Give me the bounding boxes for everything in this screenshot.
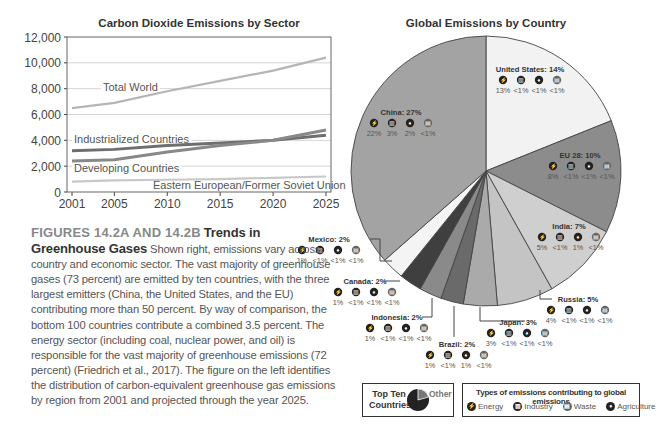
svg-text:♦: ♦ bbox=[526, 330, 529, 336]
share-value: <1% bbox=[399, 334, 414, 343]
pie-label-brazil: Brazil: 2%⚡1%▥<1%♦1%▤<1% bbox=[425, 340, 492, 370]
country-label: United States: 14% bbox=[496, 65, 565, 74]
waste-icon: ▤ bbox=[563, 402, 572, 411]
svg-text:⚡: ⚡ bbox=[550, 163, 557, 170]
emission-types-list: ⚡Energy▥Industry▤Waste♦Agriculture bbox=[467, 402, 655, 411]
x-tick-label: 2010 bbox=[154, 197, 181, 211]
legend-label: Energy bbox=[478, 402, 503, 411]
svg-text:♦: ♦ bbox=[409, 120, 412, 126]
svg-text:▤: ▤ bbox=[554, 77, 560, 83]
svg-text:♦: ♦ bbox=[538, 77, 541, 83]
share-value: <1% bbox=[550, 86, 565, 95]
share-value: 8% bbox=[548, 172, 559, 181]
share-value: <1% bbox=[385, 298, 400, 307]
svg-text:▥: ▥ bbox=[353, 289, 359, 295]
y-tick-label: 4,000 bbox=[31, 134, 61, 148]
svg-text:▥: ▥ bbox=[389, 120, 395, 126]
top-ten-legend: Top Ten Countries Other bbox=[362, 383, 454, 417]
svg-text:▥: ▥ bbox=[385, 325, 391, 331]
svg-text:▥: ▥ bbox=[445, 352, 451, 358]
other-label: Other bbox=[429, 389, 452, 399]
pie-label-japan: Japan: 3%⚡3%▥<1%♦<1%▤<1% bbox=[486, 318, 553, 348]
industry-icon: ▥ bbox=[513, 402, 522, 411]
legend-item-energy: ⚡Energy bbox=[467, 402, 503, 411]
country-label: Brazil: 2% bbox=[439, 340, 476, 349]
share-value: <1% bbox=[589, 243, 604, 252]
pie-chart-title: Global Emissions by Country bbox=[406, 17, 567, 29]
share-value: <1% bbox=[349, 298, 364, 307]
svg-text:▤: ▤ bbox=[542, 330, 548, 336]
x-tick-label: 2015 bbox=[207, 197, 234, 211]
share-value: <1% bbox=[600, 172, 615, 181]
caption-body: Shown right, emissions vary across count… bbox=[31, 243, 335, 406]
svg-text:▤: ▤ bbox=[353, 247, 359, 253]
share-value: <1% bbox=[349, 256, 364, 265]
y-tick-label: 8,000 bbox=[31, 82, 61, 96]
legend-label: Waste bbox=[574, 402, 596, 411]
share-value: <1% bbox=[367, 298, 382, 307]
share-value: <1% bbox=[502, 339, 517, 348]
series-label-developing: Developing Countries bbox=[74, 162, 180, 174]
svg-text:▥: ▥ bbox=[518, 77, 524, 83]
emission-types-legend: Types of emissions contributing to globa… bbox=[462, 383, 640, 417]
country-label: EU 28: 10% bbox=[560, 151, 601, 160]
share-value: 5% bbox=[537, 243, 548, 252]
share-value: 3% bbox=[486, 339, 497, 348]
svg-text:▤: ▤ bbox=[425, 120, 431, 126]
legend-item-agriculture: ♦Agriculture bbox=[606, 402, 655, 411]
series-label-total: Total World bbox=[103, 81, 158, 93]
country-label: Russia: 5% bbox=[558, 295, 599, 304]
share-value: <1% bbox=[553, 243, 568, 252]
share-value: <1% bbox=[417, 334, 432, 343]
legend-label: Agriculture bbox=[617, 402, 655, 411]
share-value: 4% bbox=[546, 316, 557, 325]
share-value: <1% bbox=[564, 172, 579, 181]
y-tick-label: 10,000 bbox=[24, 56, 61, 70]
share-value: <1% bbox=[582, 172, 597, 181]
country-label: India: 7% bbox=[552, 222, 586, 231]
series-label-eastern: Eastern European/Former Soviet Union bbox=[153, 179, 346, 191]
country-label: Canada: 2% bbox=[343, 277, 386, 286]
share-value: <1% bbox=[441, 361, 456, 370]
share-value: <1% bbox=[520, 339, 535, 348]
energy-icon: ⚡ bbox=[467, 402, 476, 411]
svg-text:♦: ♦ bbox=[405, 325, 408, 331]
svg-text:▤: ▤ bbox=[421, 325, 427, 331]
svg-text:▤: ▤ bbox=[481, 352, 487, 358]
svg-text:♦: ♦ bbox=[586, 307, 589, 313]
svg-text:⚡: ⚡ bbox=[367, 325, 374, 332]
svg-text:▤: ▤ bbox=[389, 289, 395, 295]
svg-text:▤: ▤ bbox=[602, 307, 608, 313]
series-label-industrialized: Industrialized Countries bbox=[74, 133, 189, 145]
top-ten-pie-icon bbox=[406, 388, 430, 412]
svg-text:♦: ♦ bbox=[337, 247, 340, 253]
svg-text:⚡: ⚡ bbox=[548, 307, 555, 314]
svg-text:♦: ♦ bbox=[577, 234, 580, 240]
svg-text:▥: ▥ bbox=[568, 163, 574, 169]
legend-item-industry: ▥Industry bbox=[513, 402, 552, 411]
svg-text:♦: ♦ bbox=[588, 163, 591, 169]
share-value: <1% bbox=[538, 339, 553, 348]
legend-item-waste: ▤Waste bbox=[563, 402, 596, 411]
share-value: <1% bbox=[562, 316, 577, 325]
svg-text:⚡: ⚡ bbox=[427, 352, 434, 359]
agriculture-icon: ♦ bbox=[606, 402, 615, 411]
share-value: 1% bbox=[365, 334, 376, 343]
svg-text:▥: ▥ bbox=[557, 234, 563, 240]
share-value: <1% bbox=[580, 316, 595, 325]
share-value: 3% bbox=[387, 129, 398, 138]
svg-text:♦: ♦ bbox=[465, 352, 468, 358]
share-value: <1% bbox=[477, 361, 492, 370]
svg-text:▥: ▥ bbox=[506, 330, 512, 336]
share-value: <1% bbox=[514, 86, 529, 95]
share-value: <1% bbox=[421, 129, 436, 138]
svg-text:▤: ▤ bbox=[604, 163, 610, 169]
svg-text:⚡: ⚡ bbox=[500, 77, 507, 84]
share-value: <1% bbox=[381, 334, 396, 343]
figure-number: FIGURES 14.2A AND 14.2B bbox=[31, 225, 201, 240]
figure-caption: FIGURES 14.2A AND 14.2B Trends in Greenh… bbox=[31, 225, 336, 408]
share-value: 22% bbox=[367, 129, 382, 138]
pie-label-russia: Russia: 5%⚡4%▥<1%♦<1%▤<1% bbox=[546, 295, 613, 325]
svg-text:⚡: ⚡ bbox=[539, 234, 546, 241]
x-tick-label: 2005 bbox=[101, 197, 128, 211]
